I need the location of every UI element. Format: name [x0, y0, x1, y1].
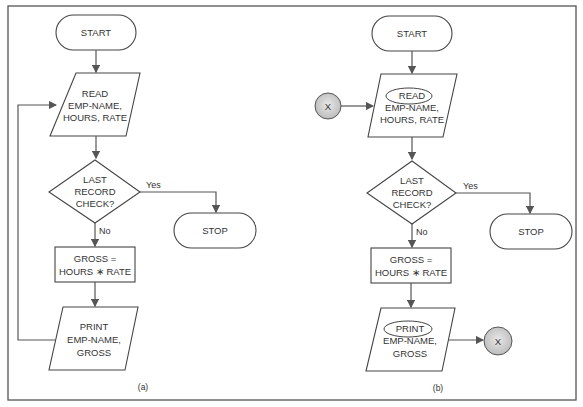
panel-b-caption: (b) — [433, 383, 444, 393]
connector-label: X — [325, 101, 332, 112]
process-label: GROSS = — [74, 253, 117, 264]
print-label: EMP-NAME, — [67, 334, 121, 345]
print-label: EMP-NAME, — [383, 335, 437, 346]
read-label: READ — [399, 90, 426, 101]
read-label: READ — [82, 88, 109, 99]
process-label: GROSS = — [390, 254, 433, 265]
panel-b: START READ EMP-NAME, HOURS, RATE X LAST … — [315, 16, 572, 393]
read-label: HOURS, RATE — [63, 112, 127, 123]
decision-label: CHECK? — [76, 198, 115, 209]
panel-a: START READ EMP-NAME, HOURS, RATE LAST RE… — [18, 15, 256, 392]
process-label: HOURS ∗ RATE — [59, 266, 131, 277]
read-label: EMP-NAME, — [385, 102, 439, 113]
yes-label: Yes — [146, 180, 161, 190]
panel-a-caption: (a) — [138, 382, 149, 392]
decision-label: RECORD — [74, 186, 115, 197]
decision-label: LAST — [400, 175, 424, 186]
start-label: START — [81, 27, 111, 38]
print-label: PRINT — [396, 323, 425, 334]
no-label: No — [99, 226, 111, 236]
decision-label: RECORD — [391, 187, 432, 198]
read-label: EMP-NAME, — [68, 100, 122, 111]
flowchart-figure: START READ EMP-NAME, HOURS, RATE LAST RE… — [0, 0, 583, 407]
decision-label: LAST — [83, 174, 107, 185]
print-label: GROSS — [393, 348, 427, 359]
print-label: GROSS — [77, 347, 111, 358]
read-label: HOURS, RATE — [380, 114, 444, 125]
no-label: No — [416, 227, 428, 237]
stop-label: STOP — [518, 226, 544, 237]
start-label: START — [397, 28, 427, 39]
yes-label: Yes — [463, 181, 478, 191]
process-label: HOURS ∗ RATE — [375, 267, 447, 278]
loop-back-arrow — [18, 105, 56, 340]
stop-label: STOP — [202, 225, 228, 236]
connector-label: X — [495, 336, 502, 347]
decision-label: CHECK? — [393, 199, 432, 210]
print-label: PRINT — [80, 321, 109, 332]
